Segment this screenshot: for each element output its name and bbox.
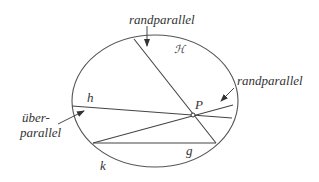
label-P: P (194, 97, 203, 112)
label-ueberparallel-line1: über- (22, 110, 50, 125)
label-k: k (100, 158, 106, 173)
label-randparallel-right: randparallel (237, 73, 303, 88)
hyperbolic-parallels-diagram: randparallel ℋ randparallel h P über- pa… (0, 0, 319, 182)
label-randparallel-top: randparallel (129, 12, 195, 27)
disk-boundary-k (72, 35, 238, 167)
label-ueberparallel-line2: parallel (19, 125, 62, 140)
arrow-randparallel-right (221, 88, 234, 101)
label-region-H: ℋ (174, 43, 187, 55)
point-P (191, 113, 195, 117)
label-h: h (87, 90, 94, 105)
label-g: g (186, 143, 193, 158)
arrow-ueberparallel (58, 111, 84, 124)
